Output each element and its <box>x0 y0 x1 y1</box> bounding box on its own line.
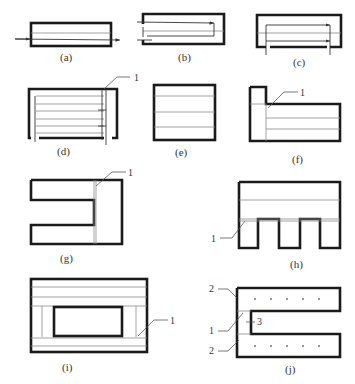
caption-h: (h) <box>290 258 303 271</box>
caption-j: (j) <box>285 363 296 376</box>
caption-f: (f) <box>292 153 303 166</box>
callout-d-1: 1 <box>134 72 139 83</box>
caption-i: (i) <box>62 361 73 374</box>
panel-c: (c) <box>257 15 341 69</box>
caption-e: (e) <box>175 146 188 159</box>
panel-a: (a) <box>15 23 120 64</box>
caption-c: (c) <box>293 56 306 69</box>
caption-d: (d) <box>57 145 70 158</box>
panel-f: 1 (f) <box>250 87 340 166</box>
callout-i-1: 1 <box>170 315 175 326</box>
panel-d: 1 (d) <box>29 72 139 158</box>
caption-b: (b) <box>178 51 191 64</box>
callout-j-1: 1 <box>209 325 214 336</box>
panel-j: 2 1 3 2 (j) <box>209 283 340 376</box>
callout-j-2-top: 2 <box>209 283 214 294</box>
panel-h: 1 (h) <box>211 182 340 271</box>
callout-j-2-bottom: 2 <box>209 345 214 356</box>
diagram-canvas: (a) (b) (c) 1 <box>0 0 355 384</box>
panel-b: (b) <box>137 14 224 64</box>
panel-e: (e) <box>154 85 215 159</box>
caption-g: (g) <box>60 252 73 265</box>
callout-j-3: 3 <box>257 316 262 327</box>
callout-h-1: 1 <box>211 233 216 244</box>
panel-g: 1 (g) <box>31 167 133 265</box>
panel-i: 1 (i) <box>31 279 175 374</box>
callout-f-1: 1 <box>300 87 305 98</box>
callout-g-1: 1 <box>128 167 133 178</box>
caption-a: (a) <box>60 51 73 64</box>
